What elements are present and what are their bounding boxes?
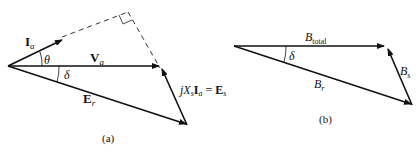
label-bs: Bs [400, 64, 410, 80]
ia-extension-dashed [62, 12, 128, 37]
label-jxsia-es: jXsIa = Es [178, 83, 226, 98]
diagram-a: Ia θ Va δ Er jXsIa = Es (a) [8, 12, 226, 145]
theta-arc [40, 52, 42, 66]
delta-arc-a [57, 66, 59, 82]
label-theta: θ [44, 53, 50, 67]
delta-arc-b [284, 46, 286, 62]
label-delta-a: δ [64, 68, 70, 82]
diagram-b: Btotal δ Bs Br (b) [234, 30, 412, 126]
label-delta-b: δ [289, 49, 295, 63]
label-va: Va [90, 50, 104, 67]
er-vector [8, 66, 186, 124]
label-btotal: Btotal [305, 30, 327, 46]
caption-b: (b) [319, 113, 332, 126]
phasor-diagrams: Ia θ Va δ Er jXsIa = Es (a) Btotal δ Bs … [0, 0, 420, 152]
perpendicular-dashed [128, 12, 160, 68]
ia-vector [8, 40, 62, 66]
caption-a: (a) [102, 132, 115, 145]
label-br: Br [314, 77, 325, 93]
br-vector [234, 46, 411, 104]
label-ia: Ia [25, 34, 35, 51]
